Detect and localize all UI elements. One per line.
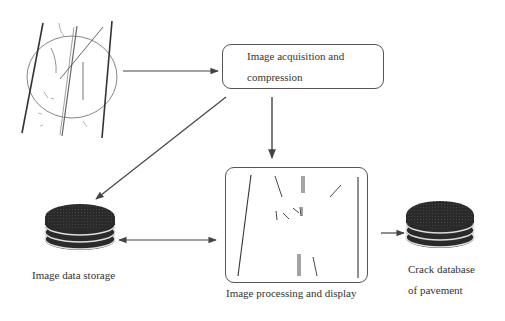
- acquisition-label-line2: compression: [247, 70, 303, 84]
- database-icon: [406, 201, 474, 248]
- acquisition-node: Image acquisition and compression: [222, 44, 384, 89]
- crackdb-label-line2: of pavement: [408, 283, 463, 297]
- pavement-crack-image: [22, 21, 117, 138]
- processing-label: Image processing and display: [226, 286, 356, 300]
- database-icon: [45, 204, 115, 250]
- processing-node: [225, 167, 368, 283]
- acquisition-label-line1: Image acquisition and: [247, 49, 344, 63]
- arrow-acquisition-to-storage: [96, 97, 226, 199]
- storage-label: Image data storage: [32, 268, 115, 282]
- crackdb-label-line1: Crack database: [408, 262, 475, 276]
